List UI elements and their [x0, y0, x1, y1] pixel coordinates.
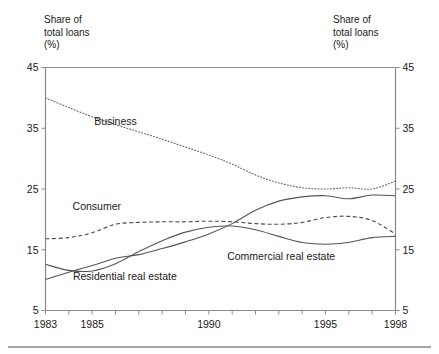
- series-line-commercial-real-estate: [46, 226, 396, 272]
- series-line-consumer: [46, 216, 396, 239]
- y-tick-label-left: 15: [27, 244, 39, 256]
- y-tick-label-right: 35: [403, 122, 415, 134]
- x-tick-label: 1995: [314, 318, 338, 330]
- series-line-business: [46, 98, 396, 189]
- y-tick-label-right: 25: [403, 183, 415, 195]
- x-tick-label: 1983: [34, 318, 58, 330]
- x-axis-ticks: 19831985199019951998: [34, 311, 408, 330]
- y-axis-ticks-left: 515253545: [27, 61, 46, 316]
- series-labels-group: BusinessConsumerResidential real estateC…: [73, 115, 336, 283]
- x-tick-label: 1985: [80, 318, 104, 330]
- y-tick-label-left: 35: [27, 122, 39, 134]
- chart-figure: Share of total loans (%) Share of total …: [0, 0, 439, 354]
- y-tick-label-left: 5: [33, 304, 39, 316]
- series-label-consumer: Consumer: [73, 200, 122, 212]
- chart-plot-area: 515253545 515253545 19831985199019951998…: [0, 0, 439, 354]
- y-tick-label-right: 15: [403, 244, 415, 256]
- x-tick-label: 1990: [197, 318, 221, 330]
- y-tick-label-left: 45: [27, 61, 39, 73]
- y-axis-ticks-right: 515253545: [396, 61, 415, 316]
- series-label-residential-real-estate: Residential real estate: [73, 270, 177, 282]
- y-tick-label-left: 25: [27, 183, 39, 195]
- series-label-commercial-real-estate: Commercial real estate: [227, 250, 335, 262]
- y-tick-label-right: 45: [403, 61, 415, 73]
- series-label-business: Business: [94, 115, 137, 127]
- y-tick-label-right: 5: [403, 304, 409, 316]
- x-tick-label: 1998: [384, 318, 408, 330]
